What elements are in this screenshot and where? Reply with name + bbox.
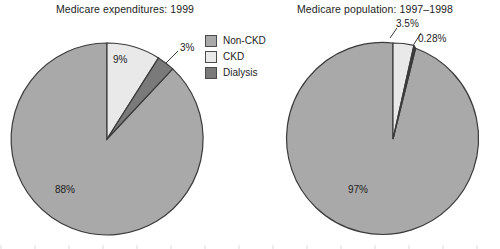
leader-line-dialysis-left [166, 51, 178, 63]
slice-label-dialysis-left: 3% [180, 42, 194, 53]
leader-line-ckd-right [390, 28, 397, 38]
chart-panel-expenditures: Medicare expenditures: 1999 9% 3% 88% No… [0, 0, 250, 249]
pie-chart-right [250, 0, 500, 249]
slice-label-ckd-left: 9% [113, 54, 127, 65]
legend-label-ckd: CKD [223, 52, 244, 62]
slice-label-dialysis-right: 0.28% [418, 33, 446, 44]
legend-swatch-non-ckd-icon [205, 35, 217, 47]
slice-label-ckd-right: 3.5% [396, 18, 419, 29]
pie-slice-nonckd-right [287, 42, 479, 234]
slice-label-nonckd-left: 88% [55, 184, 75, 195]
legend-swatch-ckd-icon [205, 51, 217, 63]
page-edge-artifact [0, 245, 500, 249]
slice-label-nonckd-right: 97% [348, 184, 368, 195]
chart-panel-population: Medicare population: 1997–1998 3.5% 0.28… [250, 0, 500, 249]
figure-pie-chart-pair: Medicare expenditures: 1999 9% 3% 88% No… [0, 0, 500, 249]
legend-swatch-dialysis-icon [205, 67, 217, 79]
